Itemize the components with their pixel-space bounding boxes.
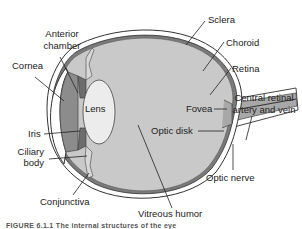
label-choroid: Choroid bbox=[226, 37, 259, 48]
label-lens: Lens bbox=[85, 103, 106, 114]
figure-caption: FIGURE 6.1.1 The internal structures of … bbox=[6, 222, 176, 229]
label-fovea: Fovea bbox=[186, 103, 212, 114]
label-ciliary-body-line1: Ciliary bbox=[8, 146, 44, 157]
label-iris: Iris bbox=[28, 128, 41, 139]
label-sclera: Sclera bbox=[208, 14, 235, 25]
label-ciliary-body-line2: body bbox=[8, 157, 44, 168]
label-vitreous-humor: Vitreous humor bbox=[138, 208, 202, 219]
label-conjunctiva: Conjunctiva bbox=[40, 196, 90, 207]
label-retina: Retina bbox=[232, 63, 259, 74]
label-optic-nerve: Optic nerve bbox=[206, 172, 255, 183]
label-anterior-chamber-line2: chamber bbox=[40, 40, 84, 51]
eye-diagram: Sclera Choroid Retina Anterior chamber C… bbox=[0, 0, 302, 229]
label-anterior-chamber-line1: Anterior bbox=[40, 28, 84, 39]
label-central-retinal-line2: artery and vein bbox=[228, 104, 300, 115]
label-cornea: Cornea bbox=[12, 60, 43, 71]
label-central-retinal-line1: Central retinal bbox=[228, 92, 300, 103]
label-optic-disk: Optic disk bbox=[151, 125, 193, 136]
